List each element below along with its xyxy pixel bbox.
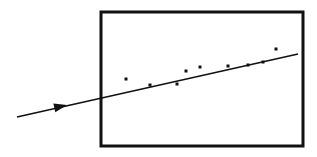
scatter-point [125, 78, 128, 81]
scatter-plot-sketch [0, 0, 317, 157]
scatter-point [199, 66, 202, 69]
scatter-point [247, 64, 250, 67]
figure-canvas [0, 0, 317, 157]
scatter-point [262, 61, 265, 64]
scatter-point [275, 48, 278, 51]
scatter-point [149, 84, 152, 87]
figure-background [0, 0, 317, 157]
scatter-point [227, 65, 230, 68]
scatter-point [185, 70, 188, 73]
scatter-point [176, 83, 179, 86]
